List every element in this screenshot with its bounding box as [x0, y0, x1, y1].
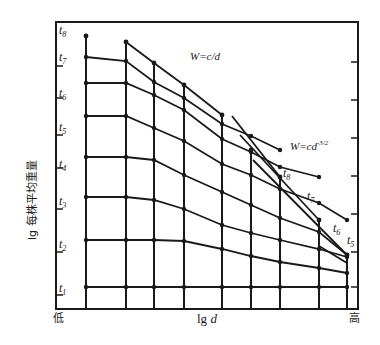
point-t1	[84, 285, 88, 289]
point-t4	[182, 173, 186, 177]
point-t7	[278, 148, 282, 152]
thinning-line-t5	[319, 246, 347, 263]
point-t6	[182, 108, 186, 112]
equation-w-c-over-d: W=c/d	[190, 50, 221, 62]
y-tick-t1: t1	[59, 281, 66, 297]
thinning-chart: t1 t2 t3 t4 t5 t6 t7 t8 W=c/d W=cd-3/2 t…	[0, 0, 380, 345]
point-t6	[152, 93, 156, 97]
point-t7	[84, 55, 88, 59]
y-tick-t2: t2	[59, 237, 66, 253]
right-axis-ticks	[351, 62, 358, 287]
thinning-line-t6	[253, 160, 347, 255]
point-t1	[220, 285, 224, 289]
thinning-label-t7: t7	[307, 189, 315, 205]
column-top-point	[345, 253, 350, 258]
y-tick-t7: t7	[59, 50, 67, 66]
column-top-point	[278, 175, 283, 180]
point-t1	[182, 285, 186, 289]
point-t4	[84, 155, 88, 159]
column-top-point	[317, 218, 322, 223]
column-top-point	[124, 40, 129, 45]
column-top-point	[152, 61, 157, 66]
point-t1	[124, 285, 128, 289]
point-t5	[84, 114, 88, 118]
point-t1	[278, 285, 282, 289]
point-t7	[220, 122, 224, 126]
column-top-point	[220, 113, 225, 118]
thinning-label-t5: t5	[347, 233, 354, 249]
point-t5	[278, 187, 282, 191]
density-columns	[86, 36, 347, 309]
point-t3	[124, 195, 128, 199]
point-t2	[182, 239, 186, 243]
point-t3	[249, 231, 253, 235]
point-t5	[152, 126, 156, 130]
point-t4	[317, 230, 321, 234]
point-t3	[182, 207, 186, 211]
point-t6	[124, 81, 128, 85]
point-t3	[152, 198, 156, 202]
point-t2	[84, 238, 88, 242]
y-tick-t6: t6	[59, 86, 66, 102]
point-t6	[220, 137, 224, 141]
point-t1	[152, 285, 156, 289]
point-t2	[249, 254, 253, 258]
point-t7	[182, 96, 186, 100]
point-t2	[278, 260, 282, 264]
point-t3	[317, 247, 321, 251]
point-t5	[249, 173, 253, 177]
y-tick-labels: t1 t2 t3 t4 t5 t6 t7 t8	[59, 23, 67, 297]
point-t2	[152, 238, 156, 242]
point-t1	[345, 285, 349, 289]
point-t1	[249, 285, 253, 289]
point-t5	[182, 139, 186, 143]
y-tick-t8: t8	[59, 23, 66, 39]
x-axis-title: lg d	[197, 311, 217, 326]
thinning-label-t6: t6	[333, 221, 340, 237]
column-top-point	[249, 148, 254, 153]
point-t6	[317, 175, 321, 179]
curve-t6	[86, 83, 319, 177]
point-t5	[345, 218, 349, 222]
point-t4	[124, 155, 128, 159]
column-top-point	[84, 34, 89, 39]
point-t2	[317, 266, 321, 270]
x-axis-low-label: 低	[53, 312, 64, 325]
point-t3	[220, 223, 224, 227]
point-t6	[278, 165, 282, 169]
point-t3	[278, 238, 282, 242]
point-t1	[317, 285, 321, 289]
point-t7	[249, 134, 253, 138]
point-t5	[317, 201, 321, 205]
point-t3	[84, 195, 88, 199]
point-t4	[220, 190, 224, 194]
point-t2	[345, 271, 349, 275]
point-t2	[124, 238, 128, 242]
point-t6	[84, 81, 88, 85]
y-tick-t3: t3	[59, 194, 66, 210]
y-axis-title: lg 每株平均重量	[25, 160, 39, 240]
equation-w-cd-power: W=cd-3/2	[290, 139, 329, 152]
column-top-point	[182, 83, 187, 88]
point-t7	[152, 80, 156, 84]
point-t4	[249, 203, 253, 207]
point-t7	[124, 59, 128, 63]
point-t4	[278, 216, 282, 220]
x-axis-high-label: 高	[349, 311, 360, 325]
point-t5	[124, 114, 128, 118]
y-tick-t5: t5	[59, 120, 66, 136]
point-t4	[152, 158, 156, 162]
y-tick-t4: t4	[59, 157, 66, 173]
plot-frame	[56, 22, 358, 309]
point-t2	[220, 247, 224, 251]
point-t5	[220, 162, 224, 166]
